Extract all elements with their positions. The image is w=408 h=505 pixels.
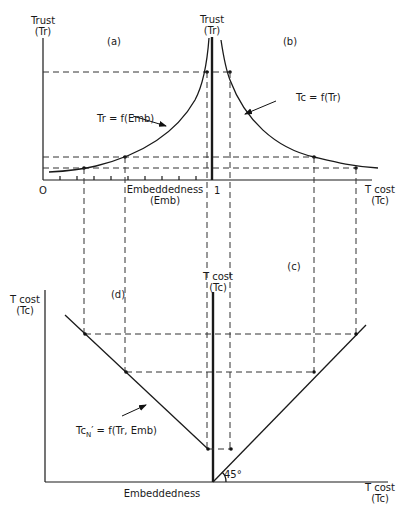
emb-axis-label-1: Embeddedness: [127, 184, 204, 195]
label-trust-center-2: (Tr): [204, 25, 221, 36]
tcost-center-label-1: T cost: [202, 271, 233, 282]
arrow-line-d: [122, 405, 146, 416]
angle-label: 45°: [224, 469, 242, 480]
label-trust-center-1: Trust: [199, 14, 224, 25]
curve-b: [221, 40, 378, 168]
point-c3: [354, 332, 358, 336]
tcost-bottom-label-1: T cost: [364, 482, 395, 493]
tcost-left-label-2: (Tc): [16, 305, 34, 316]
four-quadrant-diagram: Trust (Tr) Trust (Tr) (a) (b) (d) (c) Tr…: [0, 0, 408, 505]
line-c: [213, 325, 366, 482]
label-trust-left-1: Trust: [30, 15, 55, 26]
origin-label: O: [39, 185, 47, 196]
emb-bottom-label: Embeddedness: [124, 488, 201, 499]
curve-a: [49, 38, 209, 172]
one-label: 1: [214, 185, 220, 196]
arrow-curve-b: [245, 101, 276, 114]
tcost-center-label-2: (Tc): [209, 282, 227, 293]
panel-label-a: (a): [107, 36, 121, 47]
panel-label-b: (b): [283, 36, 297, 47]
label-trust-left-2: (Tr): [35, 26, 52, 37]
tcost-top-label-1: T cost: [364, 184, 395, 195]
point-c2: [312, 370, 316, 374]
labels: Trust (Tr) Trust (Tr) (a) (b) (d) (c) Tr…: [9, 14, 395, 504]
point-d1: [83, 332, 87, 336]
curve-b-label: Tc = f(Tr): [295, 92, 341, 103]
vertical-connectors: [84, 72, 356, 449]
emb-axis-label-2: (Emb): [150, 195, 180, 206]
point-d3: [206, 447, 210, 451]
panel-label-c: (c): [287, 261, 300, 272]
tcost-left-label-1: T cost: [9, 294, 40, 305]
curve-a-label: Tr = f(Emb): [96, 113, 154, 124]
tcost-top-label-2: (Tc): [371, 195, 389, 206]
panel-label-d: (d): [111, 289, 125, 300]
point-c1: [229, 447, 233, 451]
line-d-label: TcN′ = f(Tr, Emb): [75, 425, 157, 439]
point-d2: [124, 370, 128, 374]
bottom-panel: [45, 290, 388, 482]
top-panel: [43, 37, 378, 180]
tcost-bottom-label-2: (Tc): [371, 493, 389, 504]
